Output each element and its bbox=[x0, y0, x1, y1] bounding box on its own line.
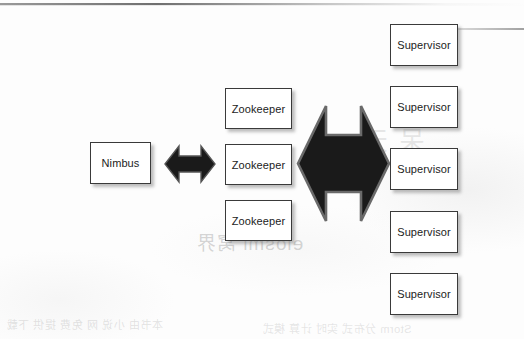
node-nimbus-label: Nimbus bbox=[102, 157, 140, 169]
node-supervisor-3-label: Supervisor bbox=[397, 163, 451, 175]
nimbus-zookeeper-arrow-icon bbox=[164, 144, 216, 184]
node-zookeeper-3-label: Zookeeper bbox=[232, 215, 286, 227]
node-supervisor-2-label: Supervisor bbox=[397, 101, 451, 113]
bleed-through-text-4: Storm 分布式 实时 计算 模式 bbox=[262, 320, 412, 336]
node-supervisor-4[interactable]: Supervisor bbox=[390, 211, 458, 253]
scan-edge-top-secondary bbox=[0, 5, 524, 6]
node-zookeeper-3[interactable]: Zookeeper bbox=[225, 200, 292, 241]
node-supervisor-1[interactable]: Supervisor bbox=[390, 24, 458, 66]
node-zookeeper-1[interactable]: Zookeeper bbox=[225, 88, 292, 129]
node-zookeeper-1-label: Zookeeper bbox=[232, 103, 286, 115]
diagram-canvas: elosmi 窝界 呆 天 本书由 小说 网 免费 提供 下载 Storm 分布… bbox=[0, 0, 524, 339]
node-zookeeper-2[interactable]: Zookeeper bbox=[225, 144, 292, 185]
bleed-through-text-3: 本书由 小说 网 免费 提供 下载 bbox=[6, 316, 163, 332]
node-zookeeper-2-label: Zookeeper bbox=[232, 159, 286, 171]
node-supervisor-5-label: Supervisor bbox=[397, 288, 451, 300]
node-supervisor-2[interactable]: Supervisor bbox=[390, 86, 458, 128]
node-supervisor-3[interactable]: Supervisor bbox=[390, 148, 458, 190]
node-supervisor-1-label: Supervisor bbox=[397, 39, 451, 51]
zookeeper-supervisor-arrow-icon bbox=[296, 104, 391, 223]
node-nimbus[interactable]: Nimbus bbox=[90, 142, 151, 184]
node-supervisor-4-label: Supervisor bbox=[397, 226, 451, 238]
node-supervisor-5[interactable]: Supervisor bbox=[390, 273, 458, 315]
